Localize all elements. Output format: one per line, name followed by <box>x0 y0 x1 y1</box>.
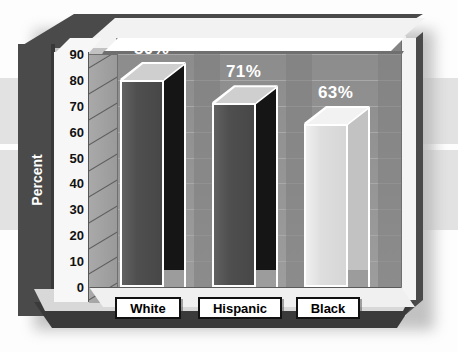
bar-value-label: 71% <box>226 62 261 82</box>
bar-side-outline <box>164 63 186 287</box>
y-axis-title: Percent <box>29 145 45 215</box>
plot-right-rim <box>401 38 416 300</box>
y-axis-tick-label: 30 <box>56 203 84 216</box>
y-axis-tick-label: 0 <box>56 281 84 294</box>
y-axis-tick-label: 70 <box>56 100 84 113</box>
left-wall-gridline <box>89 74 118 98</box>
bar-value-label: 63% <box>318 83 353 103</box>
frame-left-panel: Percent <box>18 44 54 316</box>
category-label-hispanic: Hispanic <box>198 297 282 319</box>
y-axis-column: 9080706050403020100 <box>54 52 89 302</box>
bar-front-face <box>212 103 256 287</box>
bar-front-face <box>120 80 164 287</box>
plot-area: 9080706050403020100 80%71%63% <box>54 38 406 302</box>
left-wall-gridline <box>89 203 118 227</box>
left-wall-gridline <box>89 100 118 124</box>
bar-front-face <box>304 124 348 287</box>
left-wall-gridline <box>89 177 118 201</box>
left-wall-gridline <box>89 126 118 150</box>
left-wall-gridline <box>89 229 118 253</box>
bar-side-outline <box>256 86 278 287</box>
y-axis-tick-label: 20 <box>56 229 84 242</box>
left-wall-gridline <box>89 255 118 279</box>
bar-chart-figure: Percent 9080706050403020100 80%71%63% Wh… <box>18 14 438 339</box>
y-axis-tick-label: 50 <box>56 152 84 165</box>
y-axis-tick-label: 60 <box>56 126 84 139</box>
category-label-white: White <box>115 297 181 319</box>
y-axis-tick-label: 40 <box>56 177 84 190</box>
bar-backdrop-shadow <box>378 38 402 288</box>
category-label-black: Black <box>296 297 360 319</box>
plot-left-wall <box>89 54 118 303</box>
y-axis-tick-label: 10 <box>56 255 84 268</box>
y-axis-tick-label: 80 <box>56 74 84 87</box>
bar-side-outline <box>348 107 370 287</box>
y-axis-tick-label: 90 <box>56 48 84 61</box>
bar-value-label: 80% <box>134 39 169 59</box>
left-wall-gridline <box>89 54 118 72</box>
left-wall-gridline <box>89 152 118 176</box>
